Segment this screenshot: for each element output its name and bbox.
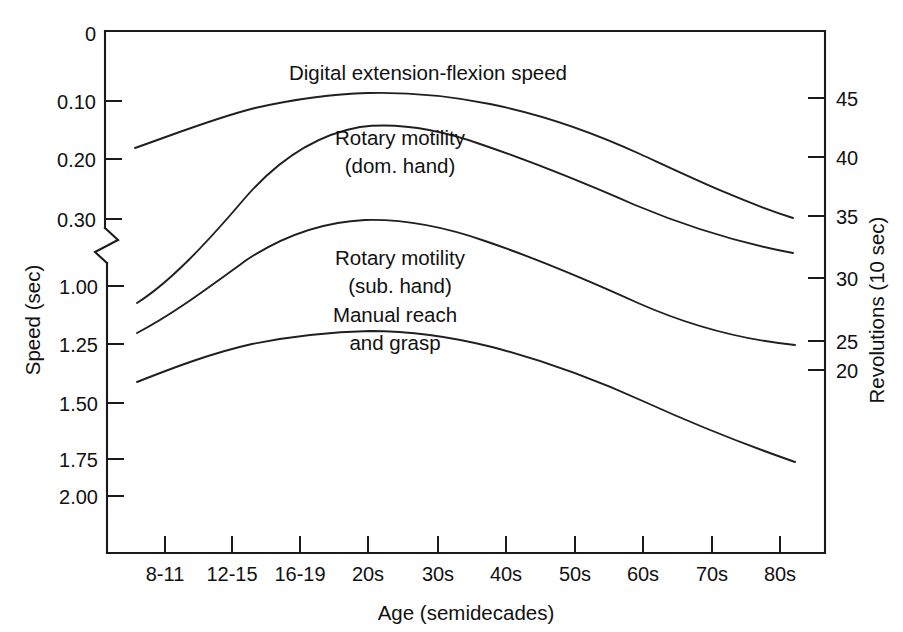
curve-rotary-motility-dom-hand xyxy=(137,126,793,303)
left-axis-tick-labels: 0 0.10 0.20 0.30 1.00 1.25 1.50 1.75 2.0… xyxy=(57,23,98,508)
bottom-tick-label: 20s xyxy=(352,563,384,585)
right-tick-label: 40 xyxy=(836,147,858,169)
bottom-tick-label: 30s xyxy=(422,563,454,585)
bottom-tick-label: 16-19 xyxy=(274,563,325,585)
bottom-tick-label: 70s xyxy=(696,563,728,585)
left-tick-label: 0 xyxy=(85,23,96,45)
left-tick-label: 1.00 xyxy=(59,276,98,298)
left-tick-label: 1.25 xyxy=(59,334,98,356)
right-tick-label: 35 xyxy=(836,206,858,228)
left-tick-label: 0.20 xyxy=(57,149,96,171)
left-tick-label: 0.30 xyxy=(57,209,96,231)
figure-container: 0 0.10 0.20 0.30 1.00 1.25 1.50 1.75 2.0… xyxy=(0,0,903,632)
bottom-tick-label: 80s xyxy=(764,563,796,585)
right-axis-ticks xyxy=(808,98,825,370)
series-label-rotary-motility-sub-hand-line1: Rotary motility xyxy=(335,246,466,269)
bottom-axis-tick-labels: 8-11 12-15 16-19 20s 30s 40s 50s 60s 70s… xyxy=(146,563,796,585)
series-inline-labels: Digital extension-flexion speed Rotary m… xyxy=(289,61,567,354)
bottom-tick-label: 60s xyxy=(627,563,659,585)
plot-frame xyxy=(95,31,825,553)
chart-svg: 0 0.10 0.20 0.30 1.00 1.25 1.50 1.75 2.0… xyxy=(0,0,903,632)
bottom-tick-label: 12-15 xyxy=(206,563,257,585)
y-axis-title-left: Speed (sec) xyxy=(21,265,44,376)
axis-break-zigzag xyxy=(95,228,118,263)
right-tick-label: 45 xyxy=(836,88,858,110)
right-tick-label: 25 xyxy=(836,331,858,353)
data-curves xyxy=(135,93,795,462)
bottom-tick-label: 8-11 xyxy=(146,563,185,585)
bottom-axis-ticks xyxy=(165,536,780,553)
series-label-manual-reach-and-grasp-line2: and grasp xyxy=(349,331,440,354)
right-tick-label: 30 xyxy=(836,268,858,290)
y-axis-title-right: Revolutions (10 sec) xyxy=(865,217,888,404)
curve-rotary-motility-sub-hand xyxy=(137,220,795,345)
curve-manual-reach-and-grasp xyxy=(137,331,795,462)
bottom-tick-label: 50s xyxy=(559,563,591,585)
curve-digital-extension-flexion-speed xyxy=(135,93,793,218)
series-label-manual-reach-and-grasp-line1: Manual reach xyxy=(333,303,457,326)
series-label-digital-extension-flexion-speed: Digital extension-flexion speed xyxy=(289,61,567,84)
left-tick-label: 2.00 xyxy=(59,486,98,508)
left-tick-label: 1.50 xyxy=(59,393,98,415)
left-tick-label: 0.10 xyxy=(57,91,96,113)
bottom-tick-label: 40s xyxy=(490,563,522,585)
right-tick-label: 20 xyxy=(836,360,858,382)
series-label-rotary-motility-sub-hand-line2: (sub. hand) xyxy=(348,274,452,297)
right-axis-tick-labels: 45 40 35 30 25 20 xyxy=(836,88,858,382)
x-axis-title: Age (semidecades) xyxy=(378,601,555,624)
left-tick-label: 1.75 xyxy=(59,449,98,471)
series-label-rotary-motility-dom-hand-line1: Rotary motility xyxy=(335,126,466,149)
series-label-rotary-motility-dom-hand-line2: (dom. hand) xyxy=(345,154,456,177)
